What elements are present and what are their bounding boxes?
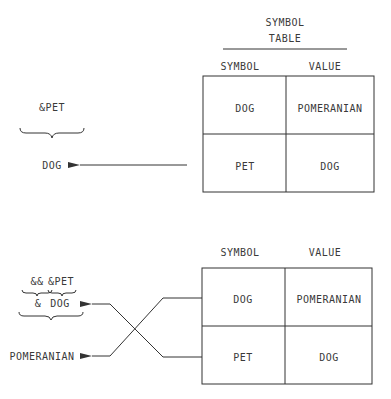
cell-value-pomeranian-2: POMERANIAN [296,294,361,305]
input-expression: &PET [39,102,65,113]
wire-dog-to-pomeranian-icon [92,298,202,356]
symbol-table: DOG POMERANIAN PET DOG [203,76,374,192]
expr-amp-pet: &PET [48,276,74,287]
header-symbol-2: SYMBOL [220,247,259,258]
cell-symbol-pet-2: PET [233,352,253,363]
wire-pet-to-dog-icon [92,304,202,357]
result-dog: DOG [42,160,62,171]
top-section: SYMBOL TABLE SYMBOL VALUE DOG POMERANIAN… [20,17,374,192]
brace-large-icon [19,312,83,320]
header-value-2: VALUE [309,247,342,258]
cell-value-dog-2: DOG [319,352,339,363]
cell-symbol-dog-2: DOG [233,294,253,305]
bottom-section: SYMBOL VALUE DOG POMERANIAN PET DOG && &… [9,247,372,384]
intermediate-amp: & [35,298,42,309]
cell-symbol-dog: DOG [235,103,255,114]
header-symbol: SYMBOL [220,61,259,72]
table-title-line2: TABLE [269,33,302,44]
cell-symbol-pet: PET [235,161,255,172]
table-title-line1: SYMBOL [265,17,304,28]
brace-icon [20,128,84,138]
header-value: VALUE [309,61,342,72]
result-pomeranian: POMERANIAN [9,351,74,362]
symbol-table-2: DOG POMERANIAN PET DOG [202,268,372,384]
cell-value-pomeranian: POMERANIAN [297,103,362,114]
intermediate-dog: DOG [50,298,70,309]
expr-double-amp: && [30,276,43,287]
cell-value-dog: DOG [320,161,340,172]
brace-small-1-icon [22,290,52,296]
symbol-table-diagram: SYMBOL TABLE SYMBOL VALUE DOG POMERANIAN… [0,0,391,399]
